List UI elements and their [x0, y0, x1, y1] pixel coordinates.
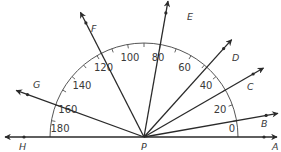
- point-G: [26, 93, 29, 96]
- point-C: [252, 72, 255, 75]
- ray-label-E: E: [187, 11, 193, 22]
- tick-mark: [63, 90, 66, 92]
- tick-mark: [213, 77, 216, 80]
- point-H: [22, 135, 25, 138]
- tick-mark: [229, 105, 233, 106]
- tick-mark: [175, 49, 176, 53]
- scale-label: 20: [214, 104, 227, 115]
- ray-label-C: C: [247, 81, 254, 92]
- point-E: [164, 11, 167, 14]
- ray-PG: [16, 90, 144, 137]
- diagram-canvas: 020406080100120140160180 ABCDEFGH P: [0, 0, 281, 152]
- scale-label: 40: [200, 80, 213, 91]
- scale-label: 180: [50, 123, 69, 134]
- point-D: [222, 47, 225, 50]
- ray-label-F: F: [91, 23, 97, 34]
- tick-mark: [112, 49, 113, 53]
- scale-label: 60: [178, 62, 191, 73]
- tick-mark: [97, 56, 99, 59]
- ray-label-G: G: [33, 79, 40, 90]
- point-B: [265, 114, 268, 117]
- ray-PE: [144, 1, 168, 137]
- ray-label-D: D: [232, 52, 239, 63]
- scale-label: 100: [120, 52, 139, 63]
- vertex-label-P: P: [141, 141, 147, 152]
- rays: [16, 1, 278, 139]
- scale-label: 140: [72, 80, 91, 91]
- point-A: [262, 135, 265, 138]
- point-F: [84, 21, 87, 24]
- tick-mark: [72, 77, 75, 80]
- tick-mark: [51, 121, 55, 122]
- protractor-scale-labels: 020406080100120140160180: [50, 52, 235, 134]
- scale-label: 0: [229, 123, 235, 134]
- ray-label-A: A: [271, 141, 279, 152]
- ray-label-B: B: [261, 118, 268, 129]
- ray-PF: [80, 12, 144, 137]
- tick-mark: [202, 65, 205, 68]
- tick-mark: [84, 65, 87, 68]
- ray-label-H: H: [19, 141, 26, 152]
- tick-mark: [128, 44, 129, 48]
- protractor-diagram: 020406080100120140160180 ABCDEFGH P: [0, 0, 281, 152]
- tick-mark: [189, 56, 191, 59]
